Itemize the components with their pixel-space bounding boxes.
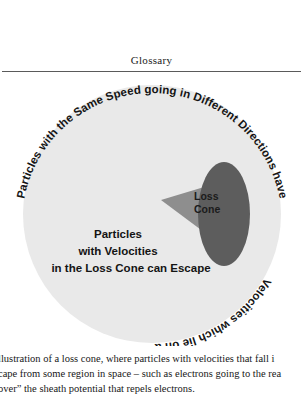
page-header: Glossary — [0, 50, 303, 68]
inner-text-line2: with Velocities — [77, 245, 157, 257]
cone-label-line2: Cone — [194, 203, 220, 215]
loss-cone-diagram: Particles with the Same Speed going in D… — [0, 78, 303, 346]
figure-caption: llustration of a loss cone, where partic… — [0, 349, 303, 403]
loss-cone-figure: Particles with the Same Speed going in D… — [0, 78, 303, 346]
inner-text-line3: in the Loss Cone can Escape — [51, 262, 210, 274]
scanned-book-page: Glossary Particles with the Same Speed g… — [0, 0, 303, 403]
page-title: Glossary — [131, 54, 173, 66]
caption-line-2: cape from some region in space – such as… — [0, 366, 281, 381]
caption-line-1: llustration of a loss cone, where partic… — [0, 351, 274, 366]
header-divider — [2, 71, 301, 72]
cone-label-line1: Loss — [194, 190, 219, 202]
inner-text-line1: Particles — [94, 228, 142, 240]
caption-line-3: over” the sheath potential that repels e… — [0, 381, 195, 396]
